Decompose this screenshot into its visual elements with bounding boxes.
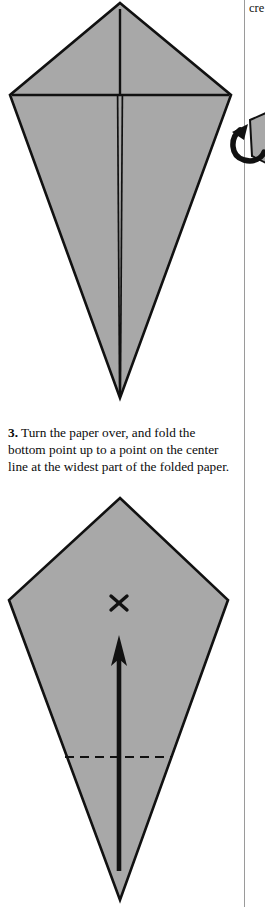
figure-folded-kite-back: [0, 494, 245, 907]
step-text: Turn the paper over, and fold the bottom…: [8, 425, 229, 474]
turn-over-arrow-icon: [228, 108, 265, 183]
adjacent-column-text: cre: [249, 0, 265, 16]
step-caption: 3.Turn the paper over, and fold the bott…: [8, 424, 236, 476]
step-number: 3.: [8, 425, 18, 440]
instruction-page: cre 3.Turn the paper over, and fold the …: [0, 0, 265, 907]
figure-folded-kite-front: [0, 0, 245, 402]
